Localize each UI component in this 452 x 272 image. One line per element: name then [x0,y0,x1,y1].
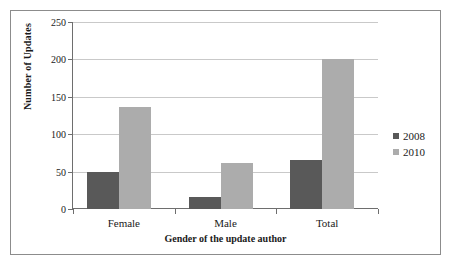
bar-total-2010 [322,59,354,209]
x-tick-mark [175,209,176,214]
y-axis-title: Number of Updates [22,7,33,127]
x-tick-mark [73,209,74,214]
bar-group: Female [73,22,175,209]
y-tick-label: 200 [51,54,66,65]
y-tick-label: 250 [51,17,66,28]
x-axis-title: Gender of the update author [73,233,378,244]
bar-female-2008 [87,172,119,209]
bar-group: Total [276,22,378,209]
legend-swatch-icon [393,149,399,155]
bar-male-2010 [221,163,253,209]
bar-chart-figure: Number of Updates 050100150200250 Female… [10,10,441,255]
bar-total-2008 [290,160,322,209]
legend-swatch-icon [393,133,399,139]
legend-entry-2008[interactable]: 2008 [393,128,425,144]
legend-entry-2010[interactable]: 2010 [393,144,425,160]
bar-female-2010 [119,107,151,209]
x-tick-label-male: Male [175,217,277,229]
y-tick-label: 50 [56,166,66,177]
x-tick-label-total: Total [276,217,378,229]
x-tick-label-female: Female [73,217,175,229]
plot-area: 050100150200250 FemaleMaleTotal [73,22,378,209]
y-tick-label: 0 [61,204,66,215]
x-tick-mark [276,209,277,214]
bar-group: Male [175,22,277,209]
legend-label: 2010 [403,146,425,158]
chart-legend: 20082010 [393,128,425,160]
x-tick-mark [378,209,379,214]
bar-male-2008 [189,197,221,209]
y-tick-label: 150 [51,91,66,102]
legend-label: 2008 [403,130,425,142]
y-tick-label: 100 [51,129,66,140]
